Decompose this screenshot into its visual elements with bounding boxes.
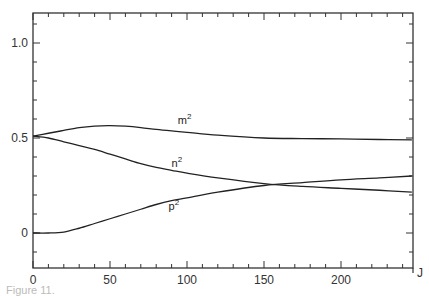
plot-frame	[33, 13, 413, 268]
series-line-m	[33, 126, 412, 140]
x-tick-label: 200	[331, 273, 351, 287]
series-line-n	[33, 136, 412, 192]
figure-caption: Figure 11.	[6, 284, 55, 296]
x-tick-label: 150	[254, 273, 274, 287]
x-tick-label: 100	[177, 273, 197, 287]
line-chart: 05010015020000.51.0Jm2n2p2	[0, 0, 429, 296]
curve-label-p: p2	[169, 198, 180, 212]
series-line-p	[33, 176, 412, 233]
y-tick-label: 0	[21, 226, 28, 240]
curve-label-n: n2	[172, 155, 183, 169]
x-tick-label: 50	[103, 273, 117, 287]
y-tick-label: 1.0	[11, 36, 28, 50]
y-tick-label: 0.5	[11, 131, 28, 145]
x-axis-label: J	[417, 266, 423, 280]
curve-label-m: m2	[178, 112, 192, 126]
